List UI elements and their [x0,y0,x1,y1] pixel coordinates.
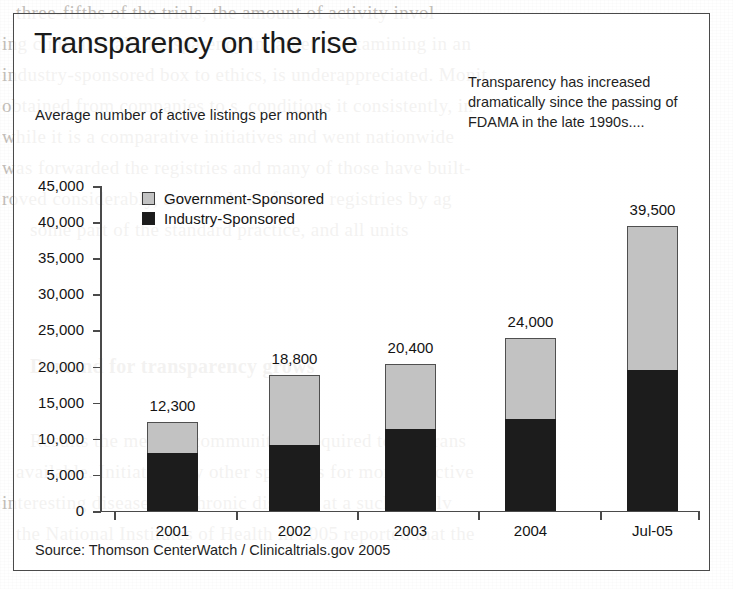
bar-segment-industry-sponsored[interactable] [505,419,556,511]
y-axis-tick-label: 45,000 [22,177,84,194]
bar-segment-government-sponsored[interactable] [385,364,436,429]
x-axis-tick-label: 2001 [147,522,198,539]
legend-item-government-sponsored: Government-Sponsored [142,190,324,207]
y-axis-tick-mark [93,511,101,513]
y-axis-tick-label: 40,000 [22,213,84,230]
bar-segment-government-sponsored[interactable] [505,338,556,419]
stacked-bar[interactable] [269,375,320,511]
y-axis-tick-label: 10,000 [22,430,84,447]
stacked-bar[interactable] [147,422,198,511]
bar-total-label: 12,300 [147,397,198,414]
y-axis-tick-mark [93,330,101,332]
bar-segment-industry-sponsored[interactable] [147,453,198,511]
bar-segment-industry-sponsored[interactable] [269,445,320,511]
x-axis-tick-mark [698,511,700,520]
legend-swatch-icon [142,192,155,205]
bar-segment-industry-sponsored[interactable] [627,370,678,511]
bar-group: 24,0002004 [505,14,556,572]
y-axis-tick-mark [93,403,101,405]
chart-source-note: Source: Thomson CenterWatch / Clinicaltr… [35,542,390,558]
x-axis-tick-mark [114,511,116,520]
x-axis-tick-label: Jul-05 [627,522,678,539]
y-axis-tick-labels: 05,00010,00015,00020,00025,00030,00035,0… [22,14,84,572]
bar-group: 12,3002001 [147,14,198,572]
y-axis-tick-mark [93,367,101,369]
y-axis-tick-label: 5,000 [22,466,84,483]
legend-item-industry-sponsored: Industry-Sponsored [142,210,324,227]
legend-swatch-icon [142,212,155,225]
bar-group: 20,4002003 [385,14,436,572]
plot-area: 05,00010,00015,00020,00025,00030,00035,0… [14,14,711,572]
bar-total-label: 20,400 [385,339,436,356]
y-axis-tick-mark [93,186,101,188]
x-axis-tick-mark [600,511,602,520]
y-axis-line [100,186,102,512]
stacked-bar[interactable] [505,338,556,511]
y-axis-tick-label: 0 [22,502,84,519]
y-axis-tick-mark [93,439,101,441]
legend-label: Government-Sponsored [164,190,324,207]
legend-label: Industry-Sponsored [164,210,295,227]
x-axis-tick-label: 2004 [505,522,556,539]
bar-segment-government-sponsored[interactable] [627,226,678,370]
y-axis-tick-mark [93,294,101,296]
x-axis-tick-label: 2003 [385,522,436,539]
x-axis-tick-label: 2002 [269,522,320,539]
bar-segment-government-sponsored[interactable] [147,422,198,453]
chart-legend: Government-Sponsored Industry-Sponsored [142,190,324,230]
stacked-bar[interactable] [385,364,436,511]
y-axis-tick-label: 30,000 [22,285,84,302]
y-axis-tick-label: 25,000 [22,321,84,338]
bar-group: 18,8002002 [269,14,320,572]
y-axis-tick-label: 15,000 [22,394,84,411]
x-axis-tick-mark [357,511,359,520]
y-axis-tick-mark [93,258,101,260]
bar-total-label: 18,800 [269,350,320,367]
bar-total-label: 39,500 [627,201,678,218]
y-axis-tick-label: 20,000 [22,358,84,375]
stacked-bar[interactable] [627,226,678,511]
chart-figure-frame: Transparency on the rise Average number … [13,13,710,571]
y-axis-tick-label: 35,000 [22,249,84,266]
bar-group: 39,500Jul-05 [627,14,678,572]
y-axis-tick-mark [93,475,101,477]
bar-segment-industry-sponsored[interactable] [385,429,436,511]
bar-segment-government-sponsored[interactable] [269,375,320,444]
x-axis-tick-mark [478,511,480,520]
x-axis-tick-mark [236,511,238,520]
bar-total-label: 24,000 [505,313,556,330]
y-axis-tick-mark [93,222,101,224]
